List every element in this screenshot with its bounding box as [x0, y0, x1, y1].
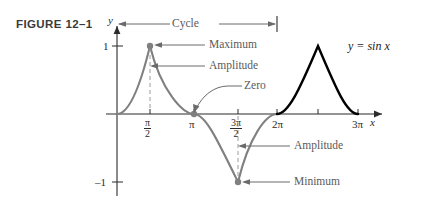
x-axis-arrowhead: [374, 111, 382, 118]
zero-leader-curve: [196, 86, 228, 109]
annotation-minimum: Minimum: [294, 175, 340, 187]
x-tick-label-pi: π: [189, 118, 195, 130]
annotation-cycle: Cycle: [172, 17, 199, 29]
minimum-arrowhead: [242, 179, 250, 185]
amplitude-bottom-leader-group: [238, 143, 290, 149]
annotation-amplitude-bottom: Amplitude: [294, 139, 343, 151]
amplitude-bottom-arrowhead: [238, 143, 246, 149]
x-tick-label-3pi-over-2: 3π 2: [230, 118, 242, 139]
y-axis-label: y: [108, 14, 113, 26]
y-tick-label-negative-one: –1: [95, 176, 106, 188]
maximum-arrowhead: [154, 42, 162, 48]
curve-equation-label: y = sin x: [348, 39, 390, 54]
maximum-leader-group: [154, 42, 205, 48]
zero-leader-group: [193, 86, 242, 113]
x-tick-label-2pi: 2π: [272, 118, 283, 130]
sine-curve-plot: [0, 0, 424, 212]
x-tick-label-3pi: 3π: [352, 118, 363, 130]
amplitude-top-leader-group: [150, 63, 205, 69]
annotation-amplitude-top: Amplitude: [209, 59, 258, 71]
x-axis-ticks: [150, 109, 358, 114]
figure-container: FIGURE 12–1: [0, 0, 424, 212]
cycle-arrowhead-left: [118, 21, 126, 27]
y-axis-arrowhead: [114, 26, 121, 34]
marker-maximum-dot: [147, 43, 153, 49]
x-tick-label-pi-over-2: π 2: [144, 118, 151, 139]
marker-minimum-dot: [235, 179, 241, 185]
cycle-arrowhead-right: [268, 21, 276, 27]
x-axis-label: x: [370, 116, 375, 128]
axis-group: [106, 26, 382, 196]
minimum-leader-group: [242, 179, 290, 185]
amplitude-top-arrowhead: [150, 63, 158, 69]
sine-curve-second-black: [277, 46, 358, 114]
annotation-zero: Zero: [244, 79, 266, 91]
y-tick-label-one: 1: [103, 40, 109, 52]
annotation-maximum: Maximum: [209, 38, 257, 50]
